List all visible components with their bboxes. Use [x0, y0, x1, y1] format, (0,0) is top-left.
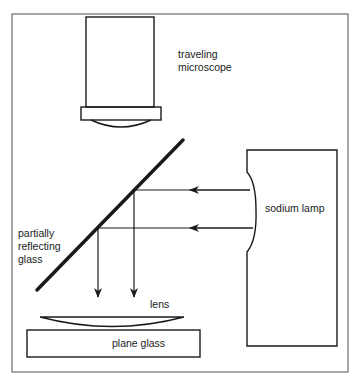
- lens-label: lens: [150, 298, 169, 311]
- microscope-label: traveling microscope: [178, 48, 232, 74]
- microscope-shape: [81, 17, 161, 127]
- diagram-drawing: [0, 0, 353, 381]
- diagram-canvas: traveling microscope sodium lamp partial…: [0, 0, 353, 381]
- reflecting-glass-shape: [37, 140, 183, 290]
- sodium-lamp-shape: [247, 150, 337, 346]
- light-rays: [98, 190, 253, 297]
- sodium-lamp-label: sodium lamp: [265, 202, 325, 215]
- plane-glass-label: plane glass: [112, 337, 165, 350]
- reflecting-glass-label: partially reflecting glass: [18, 227, 61, 266]
- lens-shape: [40, 317, 184, 327]
